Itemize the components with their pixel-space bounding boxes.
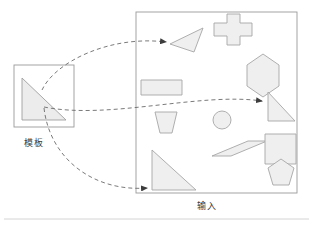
circle-shape (213, 111, 231, 129)
shape-matching-diagram (0, 0, 313, 227)
template-panel (14, 65, 74, 127)
rectangle-shape (141, 80, 182, 95)
template-caption-label: 模板 (24, 139, 43, 148)
input-caption-label: 输入 (197, 202, 216, 211)
input-panel (136, 12, 297, 193)
